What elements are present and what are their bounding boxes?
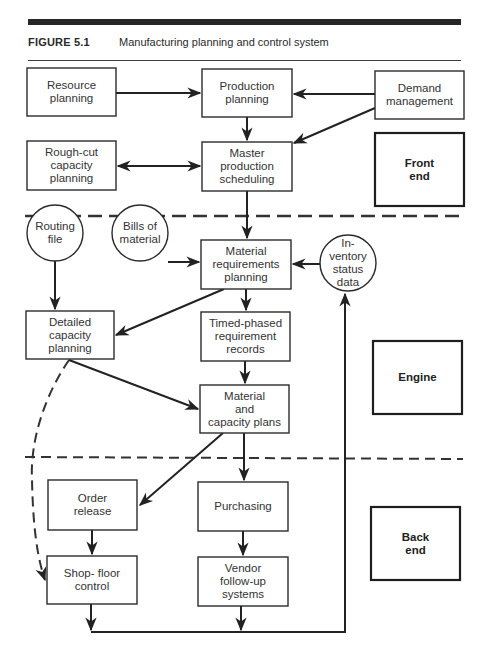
- section-back-end: Back end: [371, 507, 460, 580]
- section-engine: Engine: [373, 341, 462, 414]
- edge-demand-to-mps: [294, 108, 375, 143]
- section-front-end: Front end: [375, 133, 464, 206]
- node-production-planning: Production planning: [202, 69, 292, 117]
- node-routing-file: Routing file: [27, 205, 83, 261]
- node-master-production: Master production scheduling: [202, 142, 292, 191]
- node-vendor-followup: Vendor follow-up systems: [198, 557, 288, 606]
- node-bills-of-material: Bills of material: [112, 205, 168, 261]
- node-material-capacity-plans: Material and capacity plans: [200, 385, 289, 433]
- node-purchasing: Purchasing: [198, 482, 288, 531]
- node-timed-phased: Timed-phased requirement records: [201, 312, 290, 361]
- node-resource-planning: Resource planning: [27, 68, 116, 116]
- node-inventory-status: In- ventory status data: [320, 235, 376, 291]
- node-shop-floor: Shop- floor control: [47, 556, 137, 604]
- node-order-release: Order release: [48, 480, 137, 530]
- node-rough-cut: Rough-cut capacity planning: [27, 141, 116, 190]
- node-mrp: Material requirements planning: [201, 240, 291, 289]
- node-detailed-capacity: Detailed capacity planning: [26, 311, 114, 359]
- edge-detailed-to-matcap: [69, 360, 198, 409]
- edge-detailed-to-shopfloor-dashed: [32, 360, 69, 580]
- node-demand-management: Demand management: [375, 71, 464, 119]
